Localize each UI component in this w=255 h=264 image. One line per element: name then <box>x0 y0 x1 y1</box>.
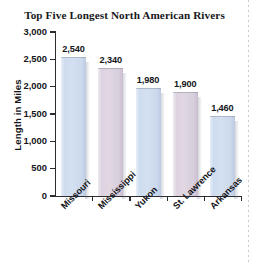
bar <box>61 57 86 196</box>
y-axis-line <box>55 31 56 197</box>
y-axis-tick <box>50 195 55 196</box>
x-axis-tick <box>204 196 205 201</box>
y-axis-tick-label: 0 <box>0 190 47 201</box>
y-axis-tick-label: 500 <box>0 162 47 173</box>
y-axis-tick <box>50 113 55 114</box>
y-axis-tick-label: 1,000 <box>0 135 47 146</box>
bar-value-label: 1,460 <box>201 103 244 113</box>
x-axis-tick <box>129 196 130 201</box>
y-axis-tick <box>50 141 55 142</box>
y-axis-tick <box>50 59 55 60</box>
chart-title: Top Five Longest North American Rivers <box>0 9 249 21</box>
bar-fill <box>136 88 161 196</box>
bar-value-label: 2,340 <box>89 55 132 65</box>
bar <box>98 68 123 196</box>
y-axis-tick <box>50 86 55 87</box>
y-axis-tick <box>50 168 55 169</box>
chart-figure: Top Five Longest North American Rivers L… <box>0 0 249 264</box>
y-axis-tick-label: 2,000 <box>0 80 47 91</box>
bar <box>136 88 161 196</box>
y-axis-tick-label: 1,500 <box>0 108 47 119</box>
y-axis-tick-label: 2,500 <box>0 53 47 64</box>
x-axis-tick <box>167 196 168 201</box>
x-axis-tick <box>241 196 242 201</box>
scan-edge-artifact <box>248 0 249 264</box>
y-axis-tick-label: 3,000 <box>0 26 47 37</box>
bar-fill <box>61 57 86 196</box>
bar-value-label: 1,900 <box>164 79 207 89</box>
bar-fill <box>98 68 123 196</box>
y-axis-tick <box>50 31 55 32</box>
bar-value-label: 2,540 <box>52 44 95 54</box>
x-axis-tick <box>92 196 93 201</box>
